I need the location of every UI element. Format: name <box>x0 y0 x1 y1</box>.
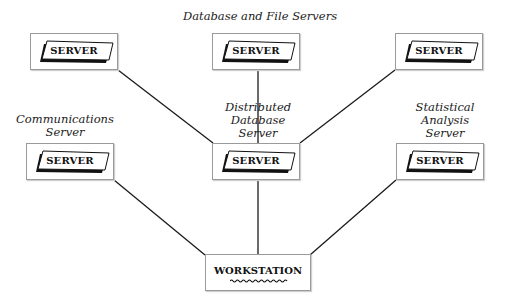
server-node-top-right[interactable]: SERVER <box>395 33 483 70</box>
server-node-statistical-analysis[interactable]: SERVER <box>396 143 484 180</box>
server-label: SERVER <box>213 45 299 56</box>
workstation-label: WORKSTATION <box>206 265 310 276</box>
server-node-top-middle[interactable]: SERVER <box>212 33 300 70</box>
edge-statistical-workstation <box>310 180 396 255</box>
workstation-node[interactable]: WORKSTATION <box>205 254 311 291</box>
server-label: SERVER <box>213 155 299 166</box>
server-label: SERVER <box>396 45 482 56</box>
server-label: SERVER <box>31 45 117 56</box>
caption-database-file-servers: Database and File Servers <box>160 10 360 23</box>
wavy-underline-icon <box>230 279 288 283</box>
server-node-communications[interactable]: SERVER <box>26 143 114 180</box>
server-label: SERVER <box>27 155 113 166</box>
server-node-distributed-database[interactable]: SERVER <box>212 143 300 180</box>
edge-topleft-distributed <box>118 70 213 143</box>
caption-communications-server: Communications Server <box>10 113 120 139</box>
caption-distributed-database-server: Distributed Database Server <box>200 101 316 140</box>
edge-communications-workstation <box>114 180 205 255</box>
server-node-top-left[interactable]: SERVER <box>30 33 118 70</box>
server-label: SERVER <box>397 155 483 166</box>
caption-statistical-analysis-server: Statistical Analysis Server <box>395 101 495 140</box>
